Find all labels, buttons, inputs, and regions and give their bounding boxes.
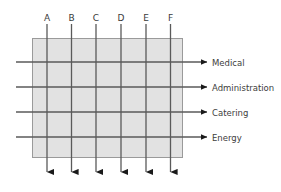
column-header-f: F [168,13,173,23]
row-labels: Medical Administration Catering Energy [212,58,274,143]
column-header-b: B [68,13,74,23]
column-header-d: D [118,13,125,23]
row-label-medical: Medical [212,58,245,68]
row-label-catering: Catering [212,108,248,118]
matrix-flow-diagram: A B C D E F Medical Administration [0,0,281,192]
column-headers: A B C D E F [44,13,173,23]
row-label-administration: Administration [212,83,274,93]
column-header-a: A [44,13,51,23]
row-label-energy: Energy [212,133,242,143]
column-header-e: E [143,13,149,23]
process-box [33,39,183,158]
column-header-c: C [93,13,99,23]
diagram-canvas: A B C D E F Medical Administration [0,0,281,192]
